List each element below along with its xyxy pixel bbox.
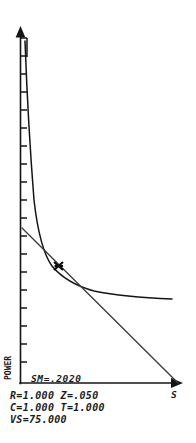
- y-axis-label: POWER: [4, 356, 13, 380]
- plot-figure: POWER SM=.2020 S R=1.000 Z=.050 C=1.000 …: [0, 0, 196, 443]
- sm-annotation: SM=.2020: [31, 373, 82, 384]
- x-axis-arrow-icon: [171, 378, 183, 388]
- power-curve: [25, 41, 172, 299]
- y-axis-ticks: [21, 38, 27, 362]
- intersection-marker: [54, 262, 63, 270]
- load-line: [22, 228, 178, 383]
- plot-canvas: POWER SM=.2020 S R=1.000 Z=.050 C=1.000 …: [0, 0, 196, 443]
- param-line-3: VS=75.000: [10, 414, 67, 425]
- param-line-2: C=1.000 T=1.000: [10, 402, 105, 413]
- y-axis-arrow-icon: [16, 26, 26, 38]
- param-line-1: R=1.000 Z=.050: [10, 390, 99, 401]
- x-axis-tip-label: S: [171, 389, 177, 400]
